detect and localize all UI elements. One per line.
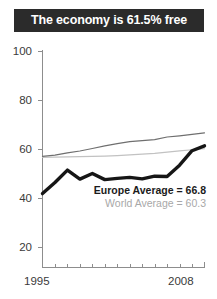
ytick-label-60: 60	[6, 144, 32, 156]
plot-area: 100 80 60 40 20 1995 2008 Europe Average…	[0, 0, 217, 299]
legend-item-world: World Average = 60.3	[0, 197, 206, 210]
axes-group	[43, 50, 206, 268]
x-tick-marks	[43, 262, 205, 268]
line-chart-svg	[0, 0, 217, 299]
legend-item-europe: Europe Average = 66.8	[0, 184, 206, 197]
ytick-label-100: 100	[6, 46, 32, 58]
series-line-europe	[43, 133, 205, 157]
ytick-label-20: 20	[6, 242, 32, 254]
xtick-label-start: 1995	[24, 276, 50, 288]
ytick-label-80: 80	[6, 95, 32, 107]
y-tick-marks	[38, 52, 43, 248]
chart-legend: Europe Average = 66.8 World Average = 60…	[0, 184, 206, 210]
chart-card: The economy is 61.5% free	[0, 0, 217, 299]
xtick-label-end: 2008	[168, 276, 194, 288]
